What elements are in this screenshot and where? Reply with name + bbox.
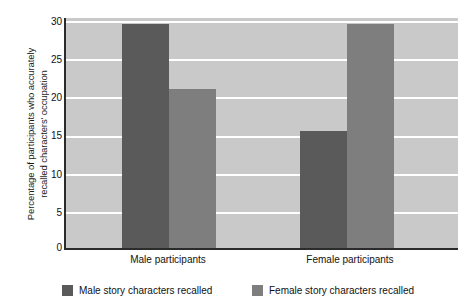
y-tick-label: 25: [36, 55, 62, 65]
y-axis-title-line-1: Percentage of participants who accuratel…: [25, 48, 36, 220]
legend-item-female-characters[interactable]: Female story characters recalled: [252, 283, 414, 297]
bar-female-participants-female-characters[interactable]: [347, 24, 394, 248]
legend-item-male-characters[interactable]: Male story characters recalled: [62, 283, 212, 297]
y-tick-label: 15: [36, 131, 62, 141]
x-axis-line: [64, 248, 458, 250]
y-axis-tick-labels: 30 25 20 15 10 5 0: [36, 0, 62, 307]
y-tick-label: 0: [36, 243, 62, 253]
y-tick-label: 10: [36, 170, 62, 180]
chart-legend: Male story characters recalled Female st…: [0, 283, 469, 299]
bar-male-participants-female-characters[interactable]: [169, 89, 216, 248]
x-category-label-female: Female participants: [287, 254, 413, 266]
legend-swatch-icon: [252, 285, 263, 296]
x-category-label-male: Male participants: [108, 254, 228, 266]
gridline-30: [66, 21, 458, 23]
y-tick-label: 30: [36, 17, 62, 27]
bar-male-participants-male-characters[interactable]: [122, 24, 169, 248]
bar-female-participants-male-characters[interactable]: [300, 131, 347, 248]
legend-label: Female story characters recalled: [269, 285, 414, 296]
legend-swatch-icon: [62, 285, 73, 296]
legend-label: Male story characters recalled: [79, 285, 212, 296]
bar-chart: Percentage of participants who accuratel…: [0, 0, 469, 307]
y-tick-label: 5: [36, 208, 62, 218]
plot-area: [66, 18, 458, 248]
y-tick-label: 20: [36, 93, 62, 103]
